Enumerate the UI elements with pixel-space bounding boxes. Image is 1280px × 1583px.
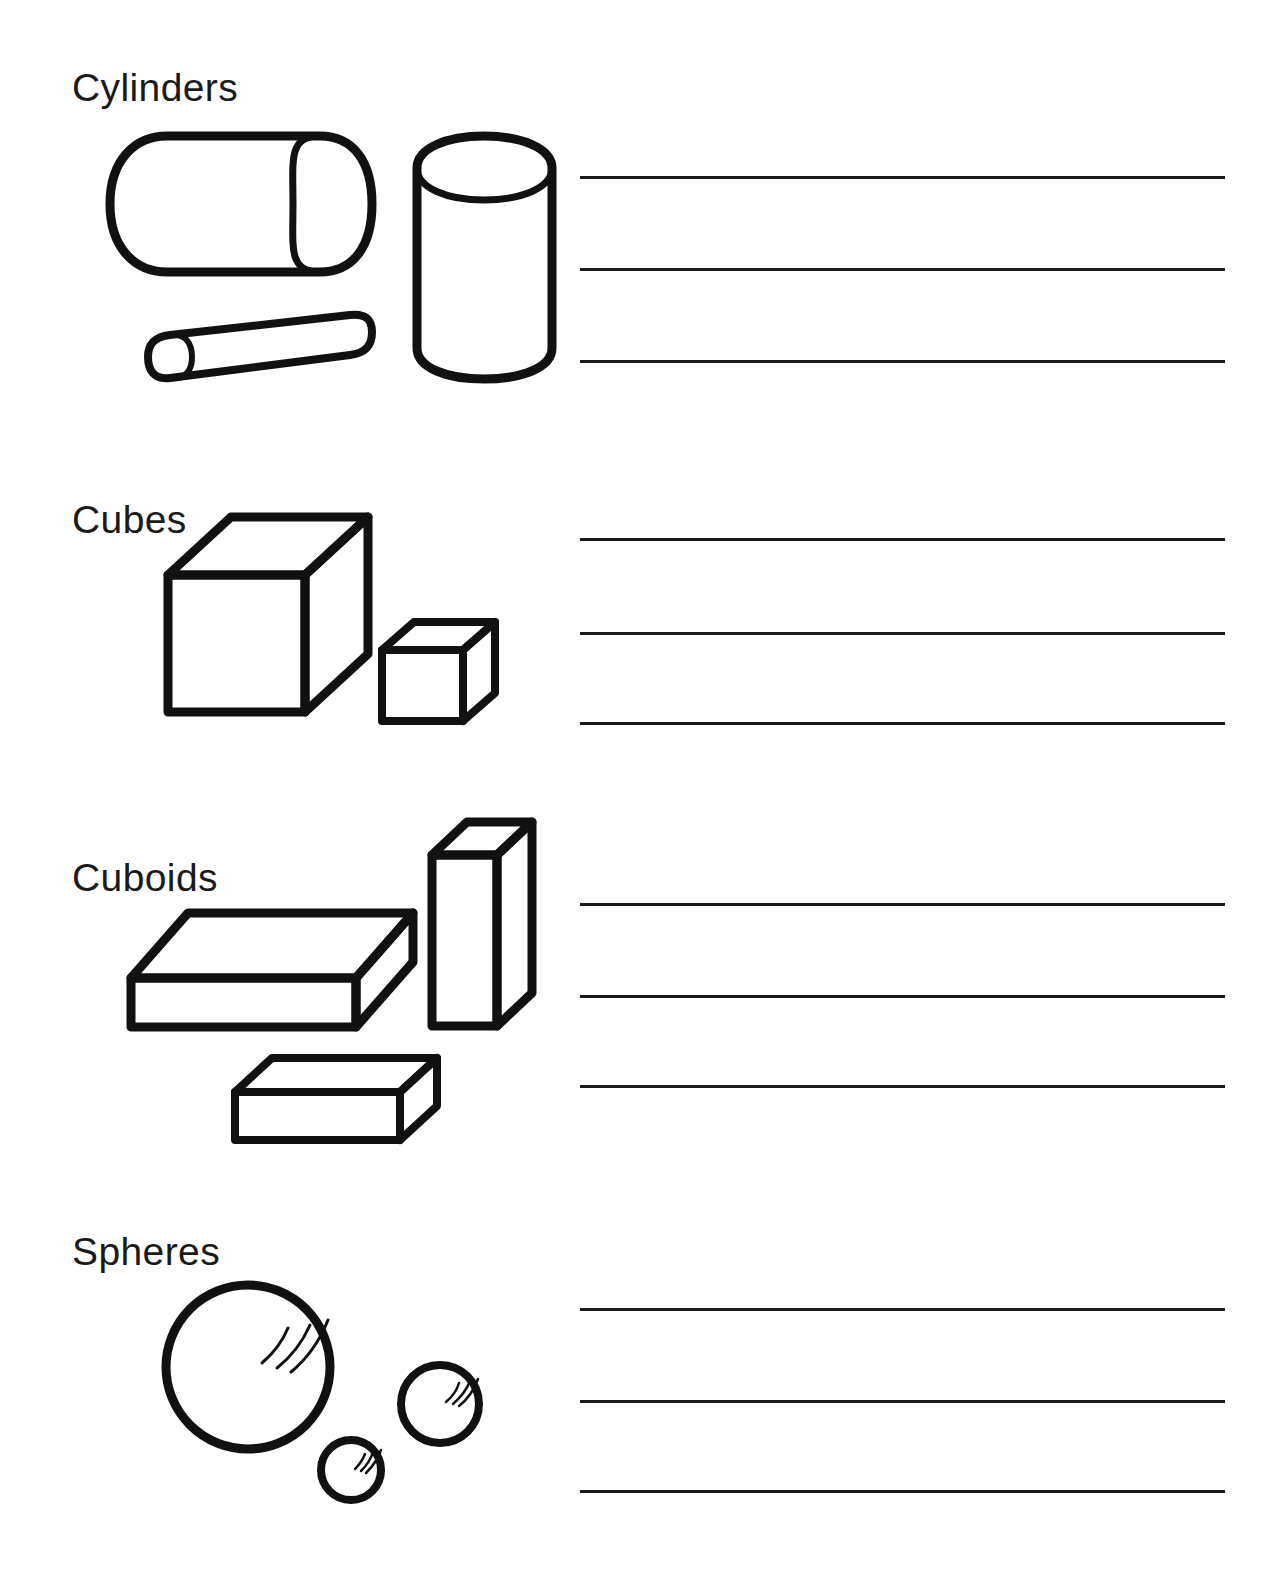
large-sphere: [166, 1285, 330, 1449]
small-sphere-highlight: [355, 1450, 381, 1473]
writing-line[interactable]: [580, 360, 1225, 363]
vertical-cylinder: [417, 136, 552, 379]
writing-line[interactable]: [580, 176, 1225, 179]
section-heading-cubes: Cubes: [72, 500, 187, 539]
worksheet-page: Cylinders Cubes Cuboids Spheres: [0, 0, 1280, 1583]
small-brick-cuboid: [235, 1058, 437, 1140]
medium-sphere: [401, 1365, 479, 1443]
writing-line[interactable]: [580, 1085, 1225, 1088]
writing-line[interactable]: [580, 268, 1225, 271]
section-heading-spheres: Spheres: [72, 1232, 220, 1271]
small-sphere: [321, 1440, 381, 1500]
large-cube: [168, 517, 368, 712]
writing-line[interactable]: [580, 1400, 1225, 1403]
shape-artwork-layer: [0, 0, 1280, 1583]
writing-line[interactable]: [580, 903, 1225, 906]
tall-upright-cuboid: [432, 822, 532, 1026]
writing-line[interactable]: [580, 995, 1225, 998]
thin-rod-cylinder: [148, 315, 372, 379]
writing-line[interactable]: [580, 1308, 1225, 1311]
medium-sphere-highlight: [446, 1379, 478, 1406]
writing-line[interactable]: [580, 632, 1225, 635]
flat-slab-cuboid: [131, 913, 413, 1027]
large-sphere-highlight: [262, 1320, 328, 1372]
writing-line[interactable]: [580, 722, 1225, 725]
section-heading-cylinders: Cylinders: [72, 68, 238, 107]
section-heading-cuboids: Cuboids: [72, 858, 218, 897]
horizontal-cylinder: [110, 136, 372, 272]
writing-line[interactable]: [580, 1490, 1225, 1493]
small-cube: [382, 622, 495, 721]
writing-line[interactable]: [580, 538, 1225, 541]
